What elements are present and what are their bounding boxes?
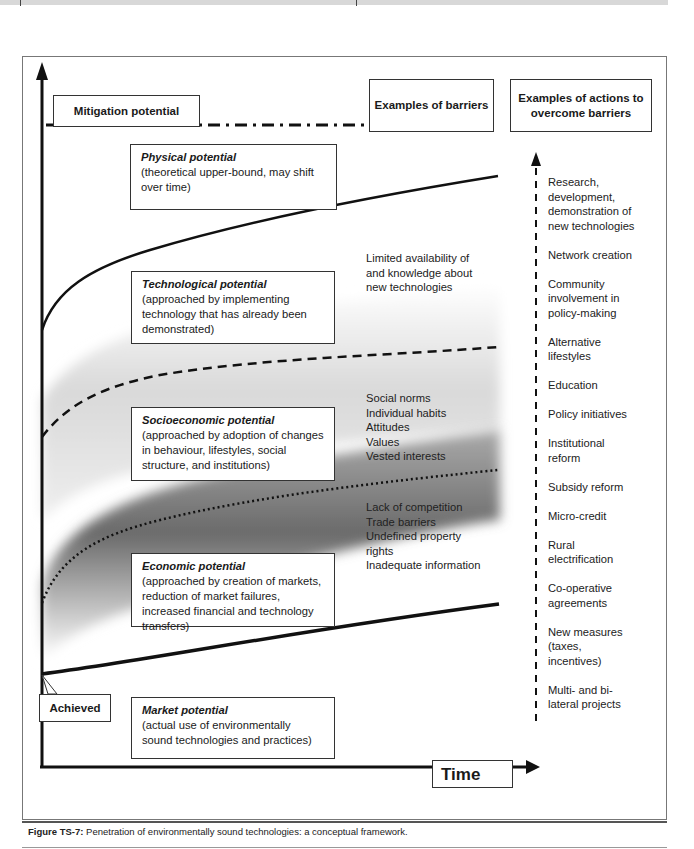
market-potential-desc: (actual use of environmentally sound tec… — [142, 719, 312, 746]
barrier-item: Vested interests — [366, 449, 446, 464]
technological-potential-desc: (approached by implementing technology t… — [142, 293, 307, 335]
action-item: Micro-credit — [548, 509, 648, 524]
economic-potential-desc: (approached by creation of markets, redu… — [142, 575, 321, 632]
action-item: Education — [548, 378, 648, 393]
barrier-item: Inadequate information — [366, 558, 486, 573]
caption-bottom-rule — [22, 847, 667, 848]
actions-arrow-up-icon — [531, 152, 541, 166]
barrier-item: Individual habits — [366, 406, 446, 421]
actions-header: Examples of actions to overcome barriers — [511, 91, 651, 121]
action-item: Community involvement in policy-making — [548, 277, 633, 321]
achieved-pointer — [42, 675, 57, 694]
x-axis-label: Time — [441, 767, 480, 782]
barriers-header-box: Examples of barriers — [369, 79, 494, 132]
market-potential-title: Market potential — [142, 703, 324, 718]
barrier-item: Lack of competition — [366, 500, 486, 515]
barrier-item: Values — [366, 435, 446, 450]
technological-potential-title: Technological potential — [142, 277, 324, 292]
physical-potential-title: Physical potential — [141, 150, 326, 165]
x-axis-label-box: Time — [432, 760, 513, 788]
physical-potential-desc: (theoretical upper-bound, may shift over… — [141, 166, 314, 193]
action-item: Institutional reform — [548, 436, 618, 465]
barriers-header: Examples of barriers — [375, 98, 489, 113]
barrier-item: Undefined property rights — [366, 529, 486, 558]
y-axis-label-box: Mitigation potential — [53, 95, 200, 127]
action-item: Subsidy reform — [548, 480, 648, 495]
y-axis-arrow-icon — [36, 62, 48, 80]
socioeconomic-potential-desc: (approached by adoption of changes in be… — [142, 429, 324, 471]
action-item: Policy initiatives — [548, 407, 648, 422]
x-axis-arrow-icon — [526, 760, 540, 774]
actions-list: Research, development, demonstration of … — [548, 175, 648, 726]
barrier-item: Trade barriers — [366, 515, 486, 530]
action-item: Network creation — [548, 248, 648, 263]
economic-potential-box: Economic potential (approached by creati… — [131, 553, 335, 627]
caption-label: Figure TS-7: — [28, 826, 83, 837]
y-axis-label: Mitigation potential — [74, 104, 179, 119]
action-item: Rural electrification — [548, 538, 618, 567]
action-item: Co-operative agreements — [548, 581, 618, 610]
barrier-item: Social norms — [366, 391, 446, 406]
action-item: Multi- and bi-lateral projects — [548, 683, 633, 712]
achieved-label: Achieved — [49, 701, 100, 716]
market-potential-box: Market potential (actual use of environm… — [131, 697, 335, 759]
socioeconomic-potential-title: Socioeconomic potential — [142, 413, 324, 428]
technological-potential-box: Technological potential (approached by i… — [131, 271, 335, 344]
action-item: Alternative lifestyles — [548, 335, 618, 364]
socioeconomic-barriers-list: Social norms Individual habits Attitudes… — [366, 391, 446, 464]
economic-barriers-list: Lack of competition Trade barriers Undef… — [366, 500, 486, 573]
action-item: New measures (taxes, incentives) — [548, 625, 638, 669]
actions-header-box: Examples of actions to overcome barriers — [510, 79, 652, 132]
caption-separator — [22, 821, 667, 823]
figure-caption: Figure TS-7: Penetration of environmenta… — [28, 826, 408, 837]
technological-barriers-text: Limited availability of and knowledge ab… — [366, 251, 486, 295]
barrier-item: Attitudes — [366, 420, 446, 435]
economic-potential-title: Economic potential — [142, 559, 324, 574]
caption-text: Penetration of environmentally sound tec… — [83, 826, 407, 837]
socioeconomic-potential-box: Socioeconomic potential (approached by a… — [131, 407, 335, 481]
action-item: Research, development, demonstration of … — [548, 175, 648, 233]
physical-potential-box: Physical potential (theoretical upper-bo… — [130, 144, 337, 210]
achieved-label-box: Achieved — [39, 694, 111, 722]
